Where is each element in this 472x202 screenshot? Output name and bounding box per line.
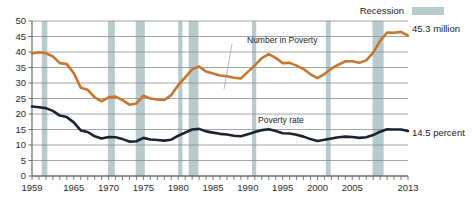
x-axis-tick-label: 1985 xyxy=(202,182,223,193)
y-axis-tick-label: 50 xyxy=(15,15,26,26)
y-axis-tick-label: 45 xyxy=(15,31,26,42)
x-axis-tick-label: 2005 xyxy=(342,182,363,193)
x-axis-tick-label: 1970 xyxy=(98,182,119,193)
x-axis-tick-label: 1995 xyxy=(272,182,293,193)
y-axis-tick-label: 20 xyxy=(15,108,26,119)
legend-recession-label: Recession xyxy=(360,5,404,16)
x-axis-tick-label: 2000 xyxy=(307,182,328,193)
x-axis-tick-label: 1990 xyxy=(237,182,258,193)
y-axis-tick-label: 25 xyxy=(15,93,26,104)
poverty-rate-endpoint-value: 14.5 percent xyxy=(412,127,465,138)
x-axis-tick-label: 1975 xyxy=(133,182,154,193)
number-in-poverty-endpoint-value: 45.3 million xyxy=(412,23,460,34)
chart-canvas: Recession 05101520253035404550 195919651… xyxy=(0,0,472,202)
y-axis-tick-label: 15 xyxy=(15,124,26,135)
x-axis-tick-label: 1965 xyxy=(63,182,84,193)
x-axis-tick-label: 1959 xyxy=(21,182,42,193)
x-axis-tick-label: 2013 xyxy=(397,182,418,193)
y-axis-tick-label: 10 xyxy=(15,139,26,150)
poverty-rate-label: Poverty rate xyxy=(258,115,304,125)
y-axis-tick-label: 5 xyxy=(21,155,26,166)
x-axis-tick-label: 1980 xyxy=(168,182,189,193)
chart-background xyxy=(0,0,472,202)
x-axis-ticks: 1959196519701975198019851990199520002005… xyxy=(21,176,418,193)
y-axis-tick-label: 0 xyxy=(21,170,26,181)
legend-recession-swatch xyxy=(412,7,444,15)
y-axis-tick-label: 35 xyxy=(15,62,26,73)
number-in-poverty-label: Number in Poverty xyxy=(247,35,318,45)
y-axis-tick-label: 30 xyxy=(15,77,26,88)
y-axis-tick-label: 40 xyxy=(15,46,26,57)
poverty-chart: Recession 05101520253035404550 195919651… xyxy=(0,0,472,202)
